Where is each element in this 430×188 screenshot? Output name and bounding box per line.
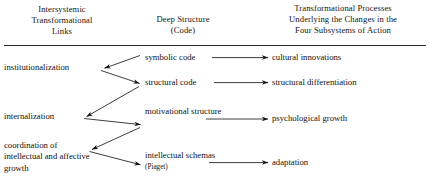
header-line-1: Transformational Processes (256, 3, 430, 14)
header-line-2: Transformational (2, 15, 122, 26)
header-line-1: Deep Structure (128, 14, 238, 25)
header-line-2: Underlying the Changes in the (256, 14, 430, 25)
diagram-figure: Intersystemic Transformational Links Dee… (0, 0, 430, 188)
node-coordination: coordination of intellectual and affecti… (4, 140, 90, 174)
node-psychological-growth: psychological growth (272, 113, 347, 124)
header-line-1: Intersystemic (2, 4, 122, 15)
header-line-3: Four Subsystems of Action (256, 25, 430, 36)
connector-structural-to-internalization (87, 87, 140, 117)
header-line-2: (Code) (128, 25, 238, 36)
column-header-links: Intersystemic Transformational Links (2, 4, 122, 38)
connector-symbolic-to-institutionalization (105, 56, 141, 69)
node-adaptation: adaptation (272, 157, 308, 168)
connector-coordination-to-intellectual (90, 152, 141, 165)
header-divider-rule (4, 45, 426, 46)
connector-institutionalization-to-structural (101, 71, 140, 84)
node-intellectual-schemas-note: (Piaget) (145, 163, 168, 171)
node-cultural-innovations: cultural innovations (272, 52, 341, 63)
node-intellectual-schemas: intellectual schemas (Piaget) (145, 150, 233, 174)
node-structural-code: structural code (145, 77, 196, 88)
column-header-processes: Transformational Processes Underlying th… (256, 3, 430, 37)
node-institutionalization: institutionalization (4, 62, 69, 73)
header-line-3: Links (2, 26, 122, 37)
node-structural-differentiation: structural differentiation (272, 77, 357, 88)
node-motivational-structure: motivational structure (145, 106, 225, 117)
node-intellectual-schemas-label: intellectual schemas (145, 150, 215, 160)
connector-internalization-to-motivational (84, 119, 141, 125)
column-header-deep-structure: Deep Structure (Code) (128, 14, 238, 36)
connector-motivational-to-coordination (92, 128, 140, 150)
node-symbolic-code: symbolic code (145, 52, 195, 63)
node-internalization: internalization (4, 111, 54, 122)
